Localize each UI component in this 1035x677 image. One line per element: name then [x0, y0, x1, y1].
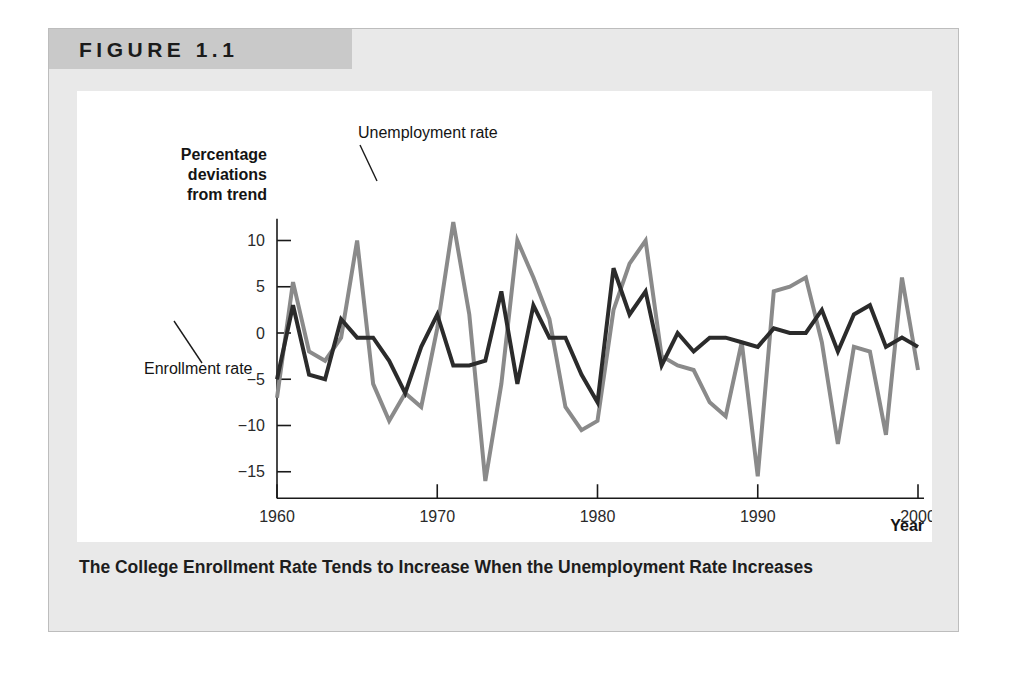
y-tick-label: 10 — [247, 232, 265, 249]
figure-number-label: FIGURE 1.1 — [79, 38, 238, 62]
line-chart: 1050−5−10−1519601970198019902000 Percent… — [77, 91, 932, 542]
y-tick-label: 5 — [256, 278, 265, 295]
y-tick-label: 0 — [256, 325, 265, 342]
x-tick-label: 1960 — [259, 508, 295, 525]
y-tick-label: −10 — [238, 417, 265, 434]
y-tick-label: −15 — [238, 463, 265, 480]
x-tick-label: 1980 — [580, 508, 616, 525]
y-axis-title-line-3: from trend — [187, 186, 267, 203]
figure-caption: The College Enrollment Rate Tends to Inc… — [79, 556, 924, 580]
annotation-unemployment-rate: Unemployment rate — [358, 124, 498, 141]
chart-series — [277, 222, 918, 481]
x-tick-label: 1970 — [419, 508, 455, 525]
x-axis-title: Year — [890, 517, 924, 534]
x-tick-label: 1990 — [740, 508, 776, 525]
series-line-unemployment-rate — [277, 222, 918, 481]
chart-axes — [277, 219, 924, 499]
annotation-enrollment-rate: Enrollment rate — [144, 360, 253, 377]
figure-page: FIGURE 1.1 1050−5−10−1519601970198019902… — [0, 0, 1035, 677]
annotation-leader-line-enrollment — [174, 321, 202, 363]
figure-panel: FIGURE 1.1 1050−5−10−1519601970198019902… — [48, 28, 959, 632]
plot-card: 1050−5−10−1519601970198019902000 Percent… — [77, 91, 932, 542]
y-axis-title-line-1: Percentage — [181, 146, 267, 163]
y-axis-title-line-2: deviations — [188, 166, 267, 183]
annotation-leader-line-unemployment — [360, 145, 377, 181]
